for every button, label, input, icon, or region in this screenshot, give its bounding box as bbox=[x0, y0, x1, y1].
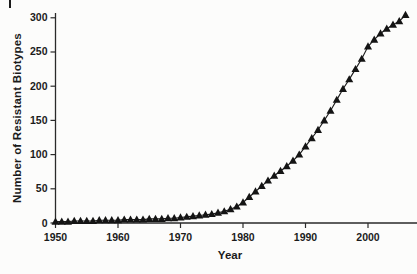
data-point-marker bbox=[333, 96, 341, 103]
data-point-marker bbox=[152, 215, 160, 222]
data-point-marker bbox=[314, 126, 322, 133]
data-point-marker bbox=[70, 217, 78, 224]
data-point-marker bbox=[345, 75, 353, 82]
x-tick-label: 1960 bbox=[106, 231, 130, 243]
data-point-marker bbox=[133, 215, 141, 222]
y-tick-label: 0 bbox=[42, 217, 48, 229]
data-point-marker bbox=[358, 55, 366, 62]
data-point-marker bbox=[83, 217, 91, 224]
y-tick-label: 200 bbox=[30, 80, 48, 92]
data-point-marker bbox=[95, 216, 103, 223]
y-tick-label: 150 bbox=[30, 114, 48, 126]
data-point-marker bbox=[52, 217, 60, 224]
x-axis-title: Year bbox=[218, 249, 242, 261]
data-point-marker bbox=[164, 214, 172, 221]
x-tick-label: 1980 bbox=[231, 231, 255, 243]
y-tick-label: 100 bbox=[30, 148, 48, 160]
chart-canvas: 1950196019701980199020000501001502002503… bbox=[0, 0, 417, 274]
data-point-marker bbox=[264, 176, 272, 183]
y-tick-label: 250 bbox=[30, 45, 48, 57]
data-point-marker bbox=[377, 29, 385, 36]
data-point-marker bbox=[77, 217, 85, 224]
x-tick-label: 1950 bbox=[44, 231, 68, 243]
data-point-marker bbox=[127, 215, 135, 222]
data-point-marker bbox=[320, 116, 328, 123]
data-point-marker bbox=[108, 216, 116, 223]
data-point-marker bbox=[58, 217, 66, 224]
y-axis-title: Number of Resistant Biotypes bbox=[11, 33, 23, 203]
y-tick-label: 50 bbox=[36, 182, 48, 194]
data-point-marker bbox=[339, 85, 347, 92]
x-tick-label: 1970 bbox=[169, 231, 193, 243]
data-point-marker bbox=[102, 216, 110, 223]
data-point-marker bbox=[277, 167, 285, 174]
data-point-marker bbox=[270, 172, 278, 179]
data-point-marker bbox=[402, 11, 410, 18]
data-point-marker bbox=[383, 25, 391, 32]
data-line bbox=[56, 15, 406, 222]
chart-figure: 1950196019701980199020000501001502002503… bbox=[0, 0, 417, 274]
data-point-marker bbox=[327, 107, 335, 114]
data-point-marker bbox=[120, 215, 128, 222]
data-point-marker bbox=[233, 202, 241, 209]
y-tick-label: 300 bbox=[30, 11, 48, 23]
x-tick-label: 1990 bbox=[294, 231, 318, 243]
x-tick-label: 2000 bbox=[356, 231, 380, 243]
data-point-marker bbox=[145, 215, 153, 222]
data-point-marker bbox=[352, 65, 360, 72]
